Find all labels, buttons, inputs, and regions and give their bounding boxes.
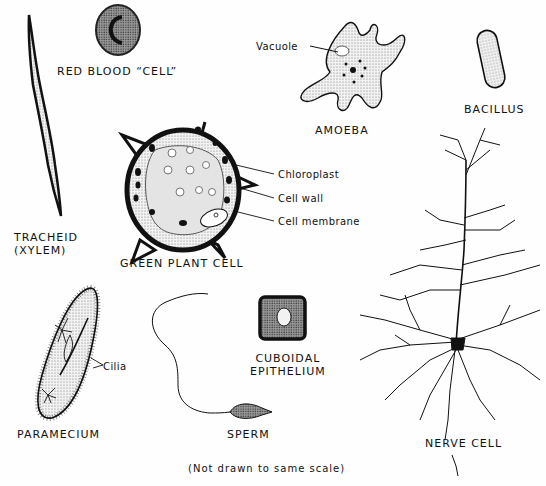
paramecium-drawing (38, 288, 103, 418)
cuboidal-epithelium-label-line2: EPITHELIUM (250, 365, 326, 378)
nerve-cell-drawing (360, 128, 540, 476)
chloroplast-label: Chloroplast (278, 168, 339, 181)
tracheid-label: TRACHEID (XYLEM) (14, 231, 78, 257)
cuboidal-epithelium-label: CUBOIDAL EPITHELIUM (250, 352, 326, 378)
red-blood-cell-drawing (96, 5, 140, 55)
green-plant-cell-drawing (122, 122, 274, 262)
cell-membrane-label: Cell membrane (278, 215, 360, 228)
scale-footnote: (Not drawn to same scale) (188, 462, 345, 475)
tracheid-drawing (29, 15, 61, 216)
tracheid-label-line1: TRACHEID (14, 231, 78, 244)
amoeba-drawing (301, 23, 405, 111)
vacuole-label: Vacuole (256, 40, 298, 53)
sperm-label: SPERM (227, 428, 270, 441)
amoeba-label: AMOEBA (315, 124, 369, 137)
cuboidal-epithelium-label-line1: CUBOIDAL (250, 352, 326, 365)
nerve-cell-label: NERVE CELL (425, 437, 502, 450)
cilia-label: Cilia (103, 360, 126, 373)
green-plant-cell-label: GREEN PLANT CELL (120, 257, 244, 270)
tracheid-label-line2: (XYLEM) (14, 244, 78, 257)
cuboidal-epithelium-drawing (260, 297, 305, 339)
bacillus-drawing (475, 29, 507, 90)
cell-wall-label: Cell wall (278, 192, 323, 205)
bacillus-label: BACILLUS (464, 103, 525, 116)
cell-types-diagram: TRACHEID (XYLEM) RED BLOOD “CELL” Vacuol… (0, 0, 546, 486)
red-blood-cell-label: RED BLOOD “CELL” (57, 65, 177, 78)
paramecium-label: PARAMECIUM (17, 428, 100, 441)
